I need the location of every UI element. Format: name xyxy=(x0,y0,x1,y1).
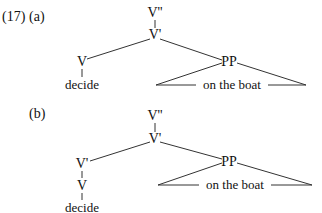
tree-a-leaf-decide: decide xyxy=(65,77,99,92)
example-number: (17) xyxy=(2,9,26,25)
tree-b-leaf-pp-content: on the boat xyxy=(206,177,264,192)
tree-b: (b) V'' V' V' V decide PP on the boat xyxy=(29,106,312,213)
tree-b-node-v: V xyxy=(77,178,87,193)
tree-b-label: (b) xyxy=(29,106,46,122)
tree-a-leaf-pp-content: on the boat xyxy=(203,77,261,92)
tree-b-node-pp: PP xyxy=(221,154,237,169)
tree-a-node-vdoublebar: V'' xyxy=(147,5,162,20)
tree-b-node-vbar: V' xyxy=(149,131,162,146)
tree-a-edge-vbar-v xyxy=(87,39,150,59)
syntax-tree-diagram: (17) (a) V'' V' V decide PP on the boat … xyxy=(0,0,322,213)
tree-a-label: (a) xyxy=(29,9,45,25)
tree-b-edge-vbar-vbar2 xyxy=(90,142,150,161)
tree-a-node-vbar: V' xyxy=(149,27,162,42)
tree-b-edge-vbar-pp xyxy=(160,142,222,159)
tree-b-node-vdoublebar: V'' xyxy=(147,108,162,123)
tree-a: (17) (a) V'' V' V decide PP on the boat xyxy=(2,5,306,92)
tree-a-edge-vbar-pp xyxy=(160,39,222,60)
tree-b-leaf-decide: decide xyxy=(65,200,99,213)
tree-b-node-vbar2: V' xyxy=(76,156,89,171)
tree-a-node-pp: PP xyxy=(221,54,237,69)
tree-a-node-v: V xyxy=(77,54,87,69)
